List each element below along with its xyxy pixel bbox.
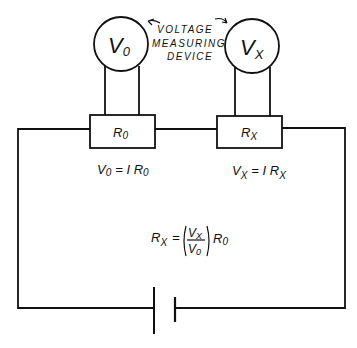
meter-v0-label: V0 [108,33,131,59]
annotation-line2: MEASURING [152,38,226,49]
svg-text:VX: VX [188,226,203,241]
svg-text:RX=: RX= [151,230,180,248]
equation-vx: VX= I RX [232,163,286,181]
svg-text:V0: V0 [188,242,201,257]
annotation-arrow-right [215,18,227,23]
resistor-rx-label: RX [241,125,257,142]
resistor-r0-label: R0 [113,125,128,141]
annotation-line3: DEVICE [167,51,213,62]
svg-text:R0: R0 [213,231,228,247]
equation-rx: RX= VX V0 R0 [151,226,228,257]
equation-v0: V0= I R0 [97,162,149,178]
annotation-line1: VOLTAGE [157,24,213,35]
circuit-diagram: V0 VX VOLTAGE MEASURING DEVICE R0 RX V0=… [0,0,357,348]
circuit-svg: V0 VX VOLTAGE MEASURING DEVICE R0 RX V0=… [0,0,357,348]
wire-left [18,129,154,308]
meter-vx-label: VX [240,35,265,62]
wire-right [175,128,345,308]
